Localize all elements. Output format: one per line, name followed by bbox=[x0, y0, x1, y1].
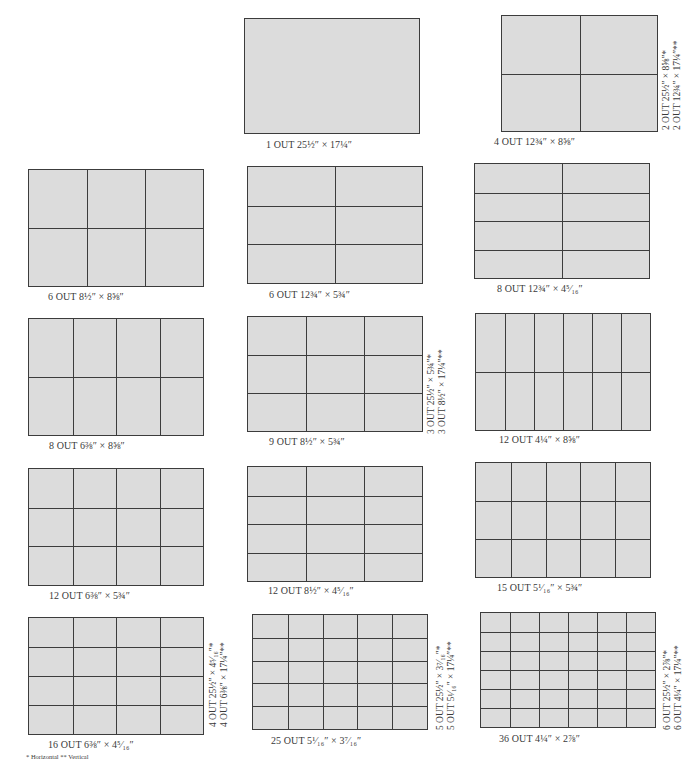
sheet-12-out-c bbox=[247, 466, 423, 582]
sheet-15-out bbox=[475, 462, 651, 578]
sheet-6-out-a bbox=[28, 169, 204, 287]
side-label-36-out-horizontal: 6 OUT 25½″ × 2⅞″* bbox=[662, 650, 673, 730]
sheet-1-out bbox=[244, 18, 420, 134]
caption-12-out-b: 12 OUT 6⅜″ × 5¾″ bbox=[49, 590, 130, 601]
caption-25-out: 25 OUT 5¹⁄₁₆″ × 3⁷⁄₁₆″ bbox=[271, 735, 361, 746]
caption-1-out: 1 OUT 25½″ × 17¼″ bbox=[266, 139, 352, 150]
caption-12-out-c: 12 OUT 8½″ × 4⁵⁄₁₆″ bbox=[268, 585, 354, 596]
side-label-4-out-vertical: 2 OUT 12¾″ × 17¼″** bbox=[672, 40, 683, 130]
caption-8-out-a: 8 OUT 12¾″ × 4⁵⁄₁₆″ bbox=[497, 283, 583, 294]
caption-16-out: 16 OUT 6⅜″ × 4⁵⁄₁₆″ bbox=[48, 739, 134, 750]
caption-9-out: 9 OUT 8½″ × 5¾″ bbox=[269, 436, 345, 447]
caption-15-out: 15 OUT 5¹⁄₁₆″ × 5¾″ bbox=[497, 582, 582, 593]
sheet-25-out bbox=[252, 614, 428, 730]
caption-36-out: 36 OUT 4¼″ × 2⅞″ bbox=[499, 733, 580, 744]
side-label-4-out-horizontal: 2 OUT 25½″ × 8⅝″* bbox=[661, 50, 672, 130]
caption-6-out-b: 6 OUT 12¾″ × 5¾″ bbox=[269, 289, 350, 300]
sheet-6-out-b bbox=[247, 166, 423, 284]
side-label-36-out-vertical: 6 OUT 4¼″ × 17¼″** bbox=[673, 645, 684, 730]
sheet-12-out-a bbox=[475, 313, 651, 431]
sheet-9-out bbox=[247, 316, 423, 432]
side-label-9-out-horizontal: 3 OUT 25½″ × 5¾″* bbox=[426, 354, 437, 434]
sheet-8-out-a bbox=[474, 163, 650, 279]
side-label-16-out-vertical: 4 OUT 6⅜″ × 17¼″** bbox=[219, 642, 230, 727]
caption-12-out-a: 12 OUT 4¼″ × 8⅝″ bbox=[499, 434, 580, 445]
caption-4-out: 4 OUT 12¾″ × 8⅝″ bbox=[494, 136, 575, 147]
side-label-9-out-vertical: 3 OUT 8½″ × 17¼″** bbox=[437, 349, 448, 434]
sheet-4-out bbox=[501, 15, 658, 132]
sheet-16-out bbox=[28, 617, 204, 735]
caption-8-out-b: 8 OUT 6⅜″ × 8⅝″ bbox=[49, 440, 125, 451]
sheet-12-out-b bbox=[28, 468, 204, 586]
side-label-25-out-horizontal: 5 OUT 25½″ × 3⁷⁄₁₆″* bbox=[435, 645, 446, 730]
side-label-25-out-vertical: 5 OUT 5¹⁄₁₆″ × 17¼″** bbox=[446, 641, 457, 730]
side-label-16-out-horizontal: 4 OUT 25½″ × 4⁵⁄₁₆″* bbox=[208, 642, 219, 727]
sheet-36-out bbox=[480, 612, 656, 728]
caption-6-out-a: 6 OUT 8½″ × 8⅝″ bbox=[48, 291, 124, 302]
sheet-8-out-b bbox=[28, 318, 204, 436]
footnote-legend: * Horizontal ** Vertical bbox=[26, 753, 89, 760]
